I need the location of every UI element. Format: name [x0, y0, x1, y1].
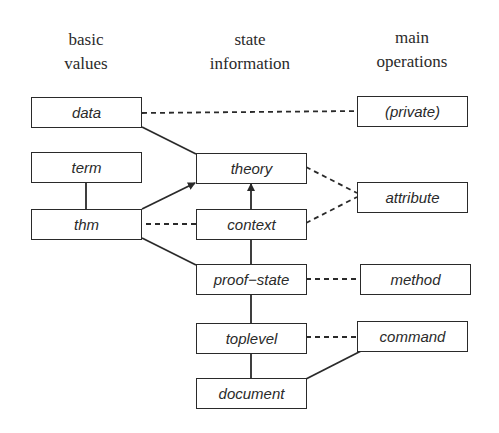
header-main-operations: main operations	[352, 26, 472, 74]
box-theory: theory	[196, 153, 307, 184]
edge-data-theory	[142, 127, 196, 154]
box-proof-state: proof−state	[196, 264, 307, 295]
header-main-operations-line2: operations	[352, 50, 472, 74]
edge-thm-theory	[142, 183, 195, 209]
edge-thm-proofstate	[142, 238, 196, 265]
diagram-canvas: basic values state information main oper…	[0, 0, 499, 433]
box-attribute: attribute	[357, 182, 468, 213]
header-basic-values-line2: values	[26, 52, 146, 76]
box-attribute-label: attribute	[385, 189, 439, 206]
box-data-label: data	[72, 104, 101, 121]
header-state-information: state information	[180, 28, 320, 76]
edge-data-private	[142, 111, 357, 113]
box-document: document	[196, 378, 307, 409]
box-method: method	[360, 264, 471, 295]
header-basic-values: basic values	[26, 28, 146, 76]
box-toplevel: toplevel	[196, 323, 307, 354]
box-document-label: document	[219, 385, 285, 402]
box-private-label: (private)	[385, 103, 440, 120]
box-thm-label: thm	[74, 216, 99, 233]
box-data: data	[31, 97, 142, 128]
box-term-label: term	[72, 159, 102, 176]
box-term: term	[31, 152, 142, 183]
box-toplevel-label: toplevel	[226, 330, 278, 347]
box-method-label: method	[390, 271, 440, 288]
box-thm: thm	[31, 209, 142, 240]
box-proof-state-label: proof−state	[214, 271, 289, 288]
box-context: context	[196, 209, 307, 240]
box-command: command	[357, 321, 468, 352]
edge-context-attribute	[306, 197, 357, 223]
edge-theory-attribute	[306, 167, 357, 193]
edge-command-document	[306, 351, 361, 379]
box-private: (private)	[357, 96, 468, 127]
box-theory-label: theory	[231, 160, 273, 177]
header-basic-values-line1: basic	[26, 28, 146, 52]
header-state-information-line1: state	[180, 28, 320, 52]
box-context-label: context	[227, 216, 275, 233]
header-state-information-line2: information	[180, 52, 320, 76]
box-command-label: command	[380, 328, 446, 345]
header-main-operations-line1: main	[352, 26, 472, 50]
